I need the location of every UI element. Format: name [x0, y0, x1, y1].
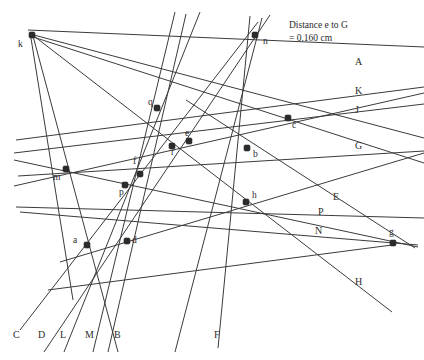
- point-label-f: f: [133, 156, 137, 166]
- point-label-d: d: [132, 235, 137, 245]
- line-J-through-b-c: [14, 104, 424, 153]
- point-g[interactable]: [390, 240, 396, 246]
- line-label-E: E: [333, 191, 339, 202]
- line-label-H: H: [355, 276, 362, 287]
- point-label-m: m: [53, 172, 61, 182]
- line-label-N: N: [315, 225, 322, 236]
- lines-group: [14, 12, 424, 352]
- diagram-canvas: knqcerbmfphgad AKJGEPNHCDLMBF Distance e…: [0, 0, 424, 360]
- line-H-from-k: [30, 33, 392, 312]
- point-d[interactable]: [124, 238, 130, 244]
- line-G-horizontal: [18, 151, 424, 176]
- point-label-q: q: [148, 97, 153, 107]
- line-E-to-g: [186, 100, 415, 248]
- point-label-c: c: [292, 120, 296, 130]
- point-a[interactable]: [84, 242, 90, 248]
- line-label-A: A: [355, 56, 363, 67]
- point-q[interactable]: [154, 105, 160, 111]
- line-labels-group: AKJGEPNHCDLMBF: [13, 56, 363, 340]
- line-label-P: P: [318, 206, 324, 217]
- line-M-through-p-a: [93, 12, 175, 352]
- line-label-G: G: [355, 140, 362, 151]
- point-label-n: n: [263, 36, 268, 46]
- line-label-B: B: [114, 329, 121, 340]
- point-m[interactable]: [63, 166, 69, 172]
- line-label-F: F: [214, 329, 220, 340]
- line-A-through-c-to-k: [28, 30, 424, 47]
- point-n[interactable]: [252, 32, 258, 38]
- line-N-h-to-g: [20, 212, 418, 245]
- line-b-to-n-lower: [175, 18, 262, 352]
- line-D-through-d: [44, 15, 270, 352]
- line-label-C: C: [13, 329, 20, 340]
- point-label-g: g: [389, 227, 394, 237]
- point-label-h: h: [252, 190, 257, 200]
- measurement-readout: Distance e to G = 0.160 cm: [289, 20, 348, 43]
- line-k-to-c-right: [30, 34, 424, 138]
- line-label-K: K: [355, 85, 363, 96]
- measurement-line-1: Distance e to G: [289, 20, 348, 30]
- point-b[interactable]: [244, 145, 250, 151]
- line-g-h-long: [48, 245, 392, 290]
- point-label-e: e: [185, 128, 189, 138]
- line-label-L: L: [60, 329, 66, 340]
- line-m-to-upper-right: [14, 93, 424, 186]
- point-c[interactable]: [285, 115, 291, 121]
- line-K-through-c: [16, 87, 424, 140]
- line-label-J: J: [355, 104, 359, 115]
- point-h[interactable]: [243, 199, 249, 205]
- line-L-through-a-d: [64, 12, 200, 352]
- line-label-D: D: [38, 329, 45, 340]
- point-label-p: p: [119, 187, 124, 197]
- point-label-a: a: [73, 235, 78, 245]
- point-f[interactable]: [137, 171, 143, 177]
- point-label-b: b: [253, 149, 258, 159]
- line-label-M: M: [85, 329, 94, 340]
- point-k[interactable]: [29, 32, 35, 38]
- point-e[interactable]: [186, 138, 192, 144]
- geometry-figure: knqcerbmfphgad AKJGEPNHCDLMBF Distance e…: [0, 0, 424, 360]
- measurement-line-2: = 0.160 cm: [289, 33, 333, 43]
- point-label-k: k: [18, 39, 23, 49]
